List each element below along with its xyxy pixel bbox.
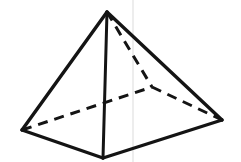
pyramid-figure-canvas: [0, 0, 241, 162]
pyramid-diagram: [0, 0, 241, 162]
